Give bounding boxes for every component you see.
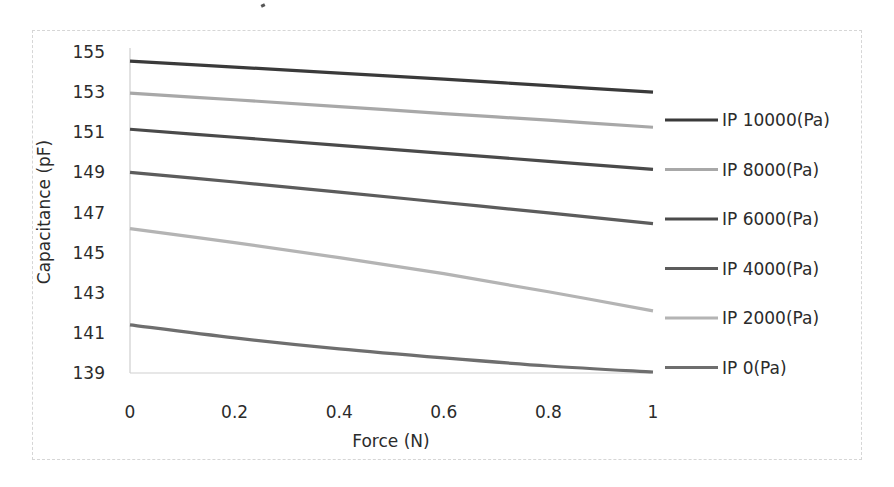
legend-item: IP 4000(Pa) (665, 259, 819, 279)
legend-label: IP 6000(Pa) (722, 209, 819, 229)
y-tick-label: 143 (73, 283, 105, 303)
x-tick-label: 0.8 (535, 402, 562, 422)
x-axis-ticks: 00.20.40.60.81 (125, 402, 659, 422)
legend-item: IP 8000(Pa) (665, 160, 819, 180)
legend-label: IP 8000(Pa) (722, 160, 819, 180)
legend-label: IP 4000(Pa) (722, 259, 819, 279)
series-line-ip-6000-pa (130, 129, 653, 169)
legend-item: IP 10000(Pa) (665, 110, 830, 130)
x-tick-label: 1 (648, 402, 659, 422)
y-tick-label: 141 (73, 323, 105, 343)
legend: IP 10000(Pa)IP 8000(Pa)IP 6000(Pa)IP 400… (665, 110, 830, 378)
y-tick-label: 147 (73, 203, 105, 223)
series-line-ip-0-pa (130, 325, 653, 372)
series-lines (130, 61, 653, 372)
y-tick-label: 149 (73, 162, 105, 182)
series-line-ip-8000-pa (130, 93, 653, 127)
series-line-ip-2000-pa (130, 229, 653, 311)
x-axis-title: Force (N) (352, 431, 429, 451)
x-tick-label: 0.4 (326, 402, 353, 422)
y-tick-label: 155 (73, 42, 105, 62)
y-tick-label: 145 (73, 243, 105, 263)
y-tick-label: 151 (73, 122, 105, 142)
legend-item: IP 6000(Pa) (665, 209, 819, 229)
series-line-ip-4000-pa (130, 172, 653, 223)
y-axis-ticks: 139141143145147149151153155 (73, 42, 105, 383)
legend-label: IP 2000(Pa) (722, 308, 819, 328)
y-tick-label: 139 (73, 363, 105, 383)
y-tick-label: 153 (73, 82, 105, 102)
x-tick-label: 0.6 (430, 402, 457, 422)
legend-item: IP 0(Pa) (665, 358, 787, 378)
y-axis-title: Capacitance (pF) (34, 140, 54, 284)
legend-item: IP 2000(Pa) (665, 308, 819, 328)
x-tick-label: 0.2 (221, 402, 248, 422)
legend-label: IP 10000(Pa) (722, 110, 830, 130)
x-tick-label: 0 (125, 402, 136, 422)
line-chart: 139141143145147149151153155 00.20.40.60.… (0, 0, 894, 487)
legend-label: IP 0(Pa) (722, 358, 787, 378)
series-line-ip-10000-pa (130, 61, 653, 92)
